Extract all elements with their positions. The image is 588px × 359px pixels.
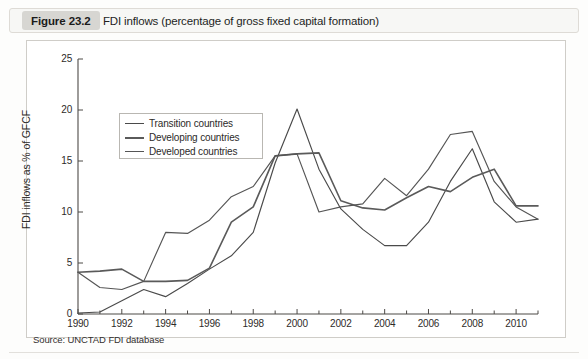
legend-label-developing: Developing countries bbox=[149, 131, 239, 144]
y-tick-20: 20 bbox=[52, 104, 72, 115]
legend-line-swatch-developing bbox=[125, 137, 144, 139]
x-tick-1990: 1990 bbox=[58, 318, 98, 329]
x-tick-1994: 1994 bbox=[146, 318, 186, 329]
legend-label-transition: Transition countries bbox=[149, 117, 233, 130]
legend-item-developed-countries: Developed countries bbox=[125, 145, 262, 158]
legend-label-developed: Developed countries bbox=[149, 145, 237, 158]
figure-number-badge: Figure 23.2 bbox=[22, 11, 100, 30]
figure-title: FDI inflows (percentage of gross fixed c… bbox=[103, 11, 379, 30]
legend-line-swatch-developed bbox=[125, 151, 144, 152]
source-note: Source: UNCTAD FDI database bbox=[33, 334, 164, 345]
legend-line-swatch-transition bbox=[125, 123, 144, 124]
y-axis-title: FDI inflows as % of GFCF bbox=[20, 110, 32, 229]
line-chart-plot bbox=[27, 41, 567, 339]
figure-page: Figure 23.2 FDI inflows (percentage of g… bbox=[0, 0, 588, 359]
x-tick-2002: 2002 bbox=[321, 318, 361, 329]
x-tick-2000: 2000 bbox=[277, 318, 317, 329]
x-tick-1996: 1996 bbox=[189, 318, 229, 329]
y-tick-5: 5 bbox=[52, 257, 72, 268]
chart-legend: Transition countries Developing countrie… bbox=[119, 113, 263, 159]
y-tick-10: 10 bbox=[52, 206, 72, 217]
legend-item-developing-countries: Developing countries bbox=[125, 131, 262, 144]
x-tick-2004: 2004 bbox=[365, 318, 405, 329]
series-line-developing-countries bbox=[78, 153, 538, 282]
x-tick-1998: 1998 bbox=[233, 318, 273, 329]
y-tick-25: 25 bbox=[52, 53, 72, 64]
x-tick-2010: 2010 bbox=[496, 318, 536, 329]
x-tick-1992: 1992 bbox=[102, 318, 142, 329]
legend-item-transition-countries: Transition countries bbox=[125, 117, 262, 130]
bottom-divider bbox=[9, 352, 579, 353]
y-tick-15: 15 bbox=[52, 155, 72, 166]
chart-frame: FDI inflows as % of GFCF 0510152025 1990… bbox=[26, 40, 566, 338]
x-tick-2006: 2006 bbox=[408, 318, 448, 329]
x-tick-2008: 2008 bbox=[452, 318, 492, 329]
